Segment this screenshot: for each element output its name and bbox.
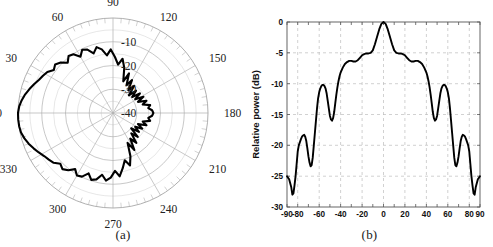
y-tick-label--15: -15 (271, 111, 283, 120)
polar-radial-label--40: -40 (121, 107, 137, 119)
x-tick-label-80: 80 (465, 210, 475, 219)
figure-root: 0306090120150180210240270300330 -10-20-3… (0, 0, 493, 247)
polar-angle-label-180: 180 (224, 107, 242, 119)
polar-angle-label-150: 150 (209, 52, 227, 64)
x-tick-label-90: 90 (475, 210, 485, 219)
x-tick-label-40: 40 (422, 210, 432, 219)
x-tick-label-0: 0 (381, 210, 386, 219)
polar-chart-svg: 0306090120150180210240270300330 -10-20-3… (0, 0, 246, 247)
y-tick-label--10: -10 (271, 80, 283, 89)
y-tick-label-0: 0 (278, 18, 283, 27)
polar-angle-label-330: 330 (0, 163, 17, 175)
polar-angle-label-300: 300 (49, 203, 67, 215)
x-tick-label--40: -40 (335, 210, 347, 219)
polar-angle-label-0: 0 (0, 107, 2, 119)
polar-angle-label-60: 60 (52, 11, 64, 23)
x-tick-label--60: -60 (313, 210, 325, 219)
x-axis-tick-labels: -90-80-60-40-2002040608090 (281, 210, 485, 219)
polar-angle-label-210: 210 (209, 163, 227, 175)
panel-b-line-plot: -90-80-60-40-2002040608090 0-5-10-15-20-… (246, 0, 493, 247)
polar-radial-label--10: -10 (121, 36, 137, 48)
y-axis-tick-labels: 0-5-10-15-20-25-30 (271, 18, 283, 212)
polar-angle-label-90: 90 (107, 0, 119, 8)
panel-b-caption: (b) (246, 227, 493, 243)
y-tick-label--30: -30 (271, 203, 283, 212)
polar-radial-label--20: -20 (121, 60, 137, 72)
polar-angle-label-240: 240 (160, 203, 178, 215)
x-tick-label--20: -20 (356, 210, 368, 219)
polar-angle-label-120: 120 (160, 11, 178, 23)
polar-grid (18, 18, 208, 208)
polar-angle-label-30: 30 (5, 52, 17, 64)
polar-radial-label--30: -30 (121, 83, 137, 95)
y-axis-title-label: Relative power (dB) (250, 70, 261, 159)
x-tick-label-60: 60 (443, 210, 453, 219)
y-tick-label--5: -5 (276, 49, 284, 58)
y-tick-label--25: -25 (271, 172, 283, 181)
line-chart-svg: -90-80-60-40-2002040608090 0-5-10-15-20-… (246, 0, 493, 247)
panel-a-caption: (a) (0, 227, 246, 243)
panel-a-polar-plot: 0306090120150180210240270300330 -10-20-3… (0, 0, 246, 247)
y-tick-label--20: -20 (271, 141, 283, 150)
x-tick-label-20: 20 (400, 210, 410, 219)
x-tick-label--80: -80 (292, 210, 304, 219)
y-axis-title: Relative power (dB) (250, 70, 261, 159)
